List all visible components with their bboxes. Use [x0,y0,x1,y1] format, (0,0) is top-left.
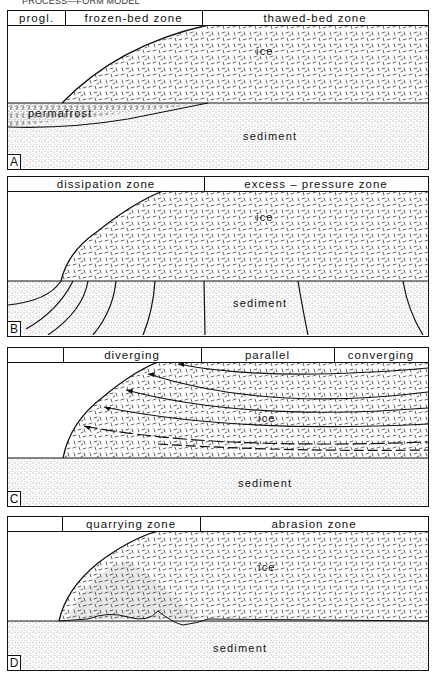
panel-a-header: progl. frozen-bed zone thawed-bed zone [8,11,428,26]
panel-c: diverging parallel converging ice sedime… [7,347,429,507]
zone-empty [8,517,62,531]
sediment-label: sediment [233,297,287,309]
panel-b: dissipation zone excess – pressure zone … [7,176,429,337]
ice-label: ice [256,45,274,57]
zone-abrasion: abrasion zone [200,517,428,531]
panel-label-c: C [8,491,21,506]
zone-diverging: diverging [63,348,201,362]
sediment-label: sediment [238,477,292,489]
zone-converging: converging [334,348,428,362]
ice-label: ice [256,211,274,223]
panel-d-header: quarrying zone abrasion zone [8,517,428,532]
panel-c-cross-section: ice sediment [8,362,428,506]
zone-excess-pressure: excess – pressure zone [204,177,428,191]
figure-title: PROCESS—FORM MODEL [22,0,140,6]
panel-b-cross-section: ice sediment [8,191,428,335]
zone-dissipation: dissipation zone [8,177,204,191]
panel-label-a: A [8,154,21,169]
sediment-label: sediment [243,130,297,142]
panel-label-d: D [8,655,21,670]
panel-label-b: B [8,321,21,336]
ice-label: ice [258,412,276,424]
zone-proglacial: progl. [8,11,65,25]
zone-empty [8,348,63,362]
panel-a: progl. frozen-bed zone thawed-bed zone p… [7,10,429,170]
panel-d: quarrying zone abrasion zone ice sedimen… [7,516,429,671]
zone-frozen-bed: frozen-bed zone [65,11,202,25]
ice-label: ice [258,561,276,573]
panel-c-header: diverging parallel converging [8,348,428,363]
permafrost-label: permafrost [28,107,93,119]
zone-quarrying: quarrying zone [62,517,200,531]
zone-thawed-bed: thawed-bed zone [202,11,428,25]
zone-parallel: parallel [201,348,334,362]
panel-a-cross-section: permafrost ice sediment [8,25,428,168]
panel-d-cross-section: ice sediment [8,531,428,670]
panel-b-header: dissipation zone excess – pressure zone [8,177,428,192]
sediment-label: sediment [213,642,267,654]
